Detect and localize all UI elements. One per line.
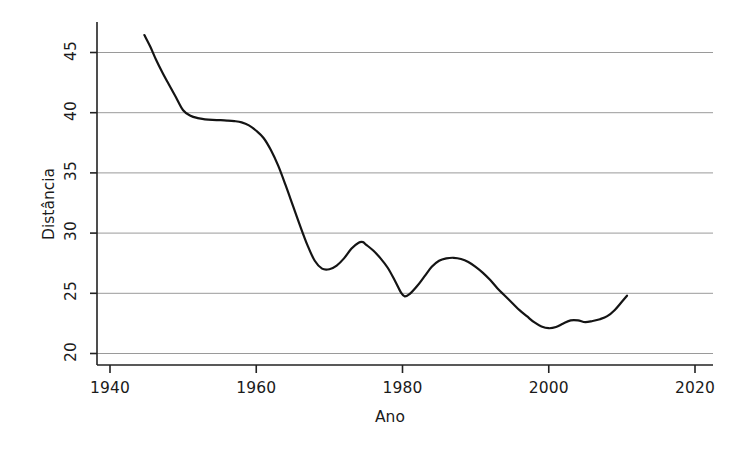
x-tick-marks	[110, 365, 695, 373]
x-tick-label-2000: 2000	[525, 379, 573, 397]
y-tick-marks	[90, 53, 97, 354]
x-tick-label-1960: 1960	[232, 379, 280, 397]
x-tick-label-2020: 2020	[671, 379, 719, 397]
y-tick-label-45: 45	[62, 38, 80, 64]
y-tick-label-35: 35	[62, 158, 80, 184]
x-axis-title: Ano	[375, 408, 405, 426]
y-gridlines	[97, 53, 713, 354]
x-tick-label-1980: 1980	[379, 379, 427, 397]
data-line-distancia	[144, 35, 627, 328]
axis-lines	[97, 22, 713, 365]
x-tick-label-1940: 1940	[86, 379, 134, 397]
y-tick-label-25: 25	[62, 278, 80, 304]
y-axis-title: Distância	[40, 168, 58, 240]
y-tick-label-20: 20	[62, 339, 80, 365]
chart-figure: 202530354045 19401960198020002020 Distân…	[0, 0, 753, 453]
y-tick-label-40: 40	[62, 98, 80, 124]
y-tick-label-30: 30	[62, 218, 80, 244]
